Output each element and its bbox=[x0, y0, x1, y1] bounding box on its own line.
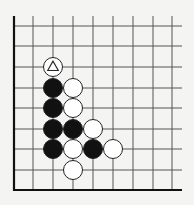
white-stone bbox=[104, 140, 123, 159]
board-grid bbox=[13, 16, 182, 191]
black-stone bbox=[44, 79, 63, 98]
white-stone-disc bbox=[84, 120, 103, 139]
black-stone-disc bbox=[44, 120, 63, 139]
white-stone-disc bbox=[104, 140, 123, 159]
black-stone-disc bbox=[44, 140, 63, 159]
black-stone bbox=[44, 99, 63, 118]
white-stone-disc bbox=[64, 161, 83, 180]
stones-layer bbox=[44, 58, 123, 180]
white-stone bbox=[64, 79, 83, 98]
black-stone-disc bbox=[64, 120, 83, 139]
black-stone-disc bbox=[44, 99, 63, 118]
black-stone bbox=[44, 140, 63, 159]
black-stone-disc bbox=[44, 79, 63, 98]
white-stone bbox=[64, 99, 83, 118]
go-board-diagram bbox=[0, 0, 194, 205]
white-stone bbox=[64, 140, 83, 159]
black-stone bbox=[84, 140, 103, 159]
white-stone bbox=[84, 120, 103, 139]
white-stone-disc bbox=[64, 140, 83, 159]
black-stone bbox=[64, 120, 83, 139]
black-stone-disc bbox=[84, 140, 103, 159]
black-stone bbox=[44, 120, 63, 139]
white-stone-disc bbox=[64, 79, 83, 98]
white-stone bbox=[44, 58, 63, 77]
white-stone bbox=[64, 161, 83, 180]
white-stone-disc bbox=[64, 99, 83, 118]
